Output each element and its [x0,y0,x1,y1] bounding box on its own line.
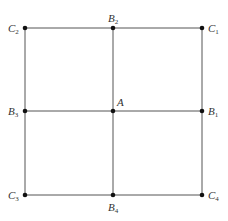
point-B2 [111,26,116,31]
point-C1 [200,26,205,31]
label-A: A [116,96,124,108]
label-C2: C2 [8,22,19,36]
point-A [111,109,116,114]
point-B4 [111,193,116,198]
point-C3 [23,193,28,198]
label-B3: B3 [8,105,19,119]
point-C2 [23,26,28,31]
point-B3 [23,109,28,114]
label-B2: B2 [108,12,119,26]
label-B4: B4 [108,201,119,215]
grid-diagram: C2B2C1B3AB1C3B4C4 [0,0,228,221]
label-C4: C4 [208,189,219,203]
point-C4 [200,193,205,198]
labels: C2B2C1B3AB1C3B4C4 [8,12,219,215]
label-C3: C3 [8,189,19,203]
label-C1: C1 [208,22,219,36]
label-B1: B1 [208,105,219,119]
point-B1 [200,109,205,114]
